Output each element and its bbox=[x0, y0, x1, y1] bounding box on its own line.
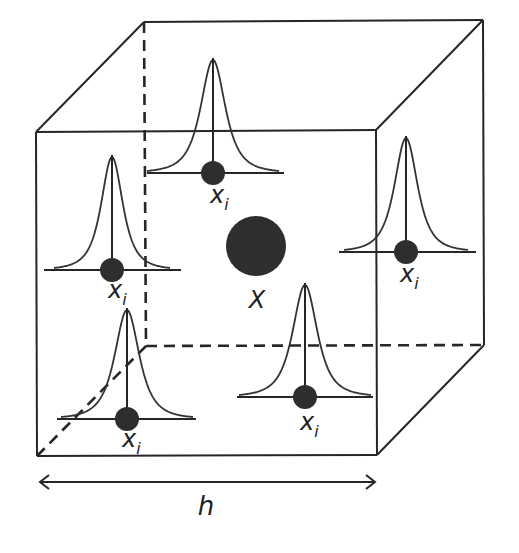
kernel-bottom-left: xi bbox=[57, 308, 196, 458]
kernel-left: xi bbox=[44, 155, 181, 309]
hidden-cube-edge bbox=[146, 345, 484, 346]
cube-edge bbox=[36, 22, 144, 132]
cube-edge bbox=[376, 20, 483, 130]
center-point-label: X bbox=[247, 286, 266, 314]
cube-edge bbox=[376, 130, 377, 455]
sample-label: xi bbox=[399, 260, 419, 293]
cube-edge bbox=[36, 130, 376, 132]
kernel-right: xi bbox=[339, 136, 476, 293]
center-point-group: X bbox=[226, 216, 286, 314]
sample-point bbox=[293, 385, 317, 409]
cube-edge bbox=[36, 132, 37, 456]
cube-edge bbox=[37, 455, 377, 456]
kernel-density-cube-diagram: xixixixixi X h bbox=[0, 0, 519, 553]
dimension-label: h bbox=[198, 491, 214, 521]
sample-label: xi bbox=[209, 181, 229, 214]
hidden-cube-edge bbox=[144, 22, 146, 346]
cube-edge bbox=[483, 20, 484, 345]
kernel-top: xi bbox=[147, 58, 284, 214]
sample-label: xi bbox=[299, 408, 319, 441]
cube-edge bbox=[377, 345, 484, 455]
cube-edge bbox=[144, 20, 483, 22]
sample-label: xi bbox=[121, 425, 141, 458]
sample-label: xi bbox=[107, 276, 127, 309]
center-point bbox=[226, 216, 286, 276]
width-dimension: h bbox=[40, 475, 375, 521]
